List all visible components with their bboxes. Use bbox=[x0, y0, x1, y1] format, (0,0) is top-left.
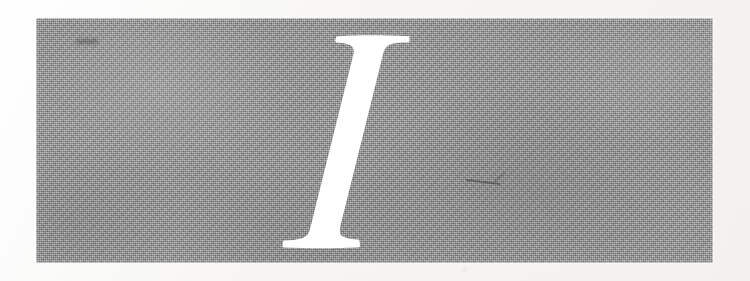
part-divider-page: Part I bbox=[0, 0, 750, 281]
roman-numeral-one-knockout bbox=[36, 18, 713, 263]
gray-halftone-panel bbox=[36, 18, 713, 263]
